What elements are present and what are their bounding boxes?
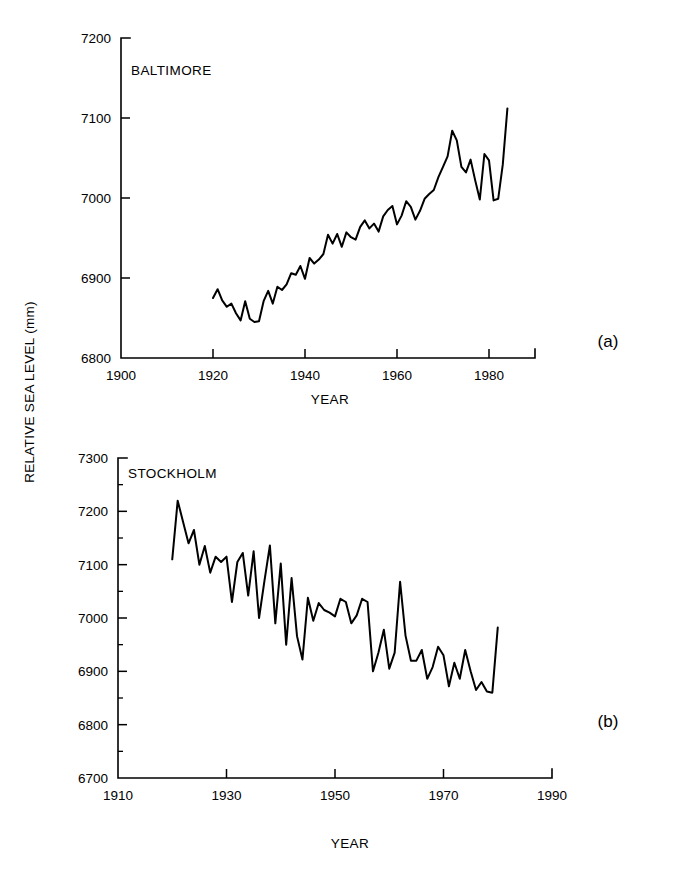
y-tick-label: 6800 — [78, 718, 108, 733]
x-tick-label: 1950 — [320, 788, 350, 803]
baltimore-ticks — [121, 118, 489, 358]
stockholm-series-line — [172, 501, 498, 693]
x-tick-label: 1940 — [290, 368, 320, 383]
x-tick-label: 1970 — [428, 788, 458, 803]
panel-a-tag: (a) — [598, 332, 619, 351]
x-tick-label: 1960 — [382, 368, 412, 383]
y-tick-label: 7300 — [78, 451, 108, 466]
x-tick-label: 1900 — [106, 368, 136, 383]
y-tick-label: 6900 — [81, 271, 111, 286]
panel-b-tag: (b) — [598, 712, 619, 731]
stockholm-plot: 6700680069007000710072007300191019301950… — [0, 430, 678, 869]
y-tick-label: 7100 — [81, 111, 111, 126]
y-tick-label: 6700 — [78, 771, 108, 786]
x-tick-label: 1930 — [211, 788, 241, 803]
panel-a-baltimore: 6800690070007100720019001920194019601980… — [0, 0, 678, 430]
stockholm-axes — [118, 458, 552, 778]
stockholm-tick-labels: 6700680069007000710072007300191019301950… — [78, 451, 567, 803]
baltimore-axes — [121, 38, 535, 358]
baltimore-series-title: BALTIMORE — [131, 63, 212, 78]
x-tick-label: 1910 — [103, 788, 133, 803]
y-tick-label: 7200 — [81, 31, 111, 46]
figure-relative-sea-level: RELATIVE SEA LEVEL (mm) 6800690070007100… — [0, 0, 678, 869]
baltimore-x-axis-title: YEAR — [311, 392, 349, 407]
stockholm-ticks — [118, 485, 444, 778]
panel-b-stockholm: 6700680069007000710072007300191019301950… — [0, 430, 678, 869]
y-tick-label: 7200 — [78, 504, 108, 519]
baltimore-series-line — [213, 108, 507, 322]
y-tick-label: 7100 — [78, 558, 108, 573]
y-tick-label: 7000 — [78, 611, 108, 626]
y-tick-label: 7000 — [81, 191, 111, 206]
y-tick-label: 6800 — [81, 351, 111, 366]
x-tick-label: 1980 — [474, 368, 504, 383]
stockholm-x-axis-title: YEAR — [331, 836, 369, 851]
y-tick-label: 6900 — [78, 664, 108, 679]
x-tick-label: 1990 — [537, 788, 567, 803]
x-tick-label: 1920 — [198, 368, 228, 383]
baltimore-plot: 6800690070007100720019001920194019601980… — [0, 0, 678, 430]
baltimore-tick-labels: 6800690070007100720019001920194019601980 — [81, 31, 504, 383]
stockholm-series-title: STOCKHOLM — [128, 466, 217, 481]
